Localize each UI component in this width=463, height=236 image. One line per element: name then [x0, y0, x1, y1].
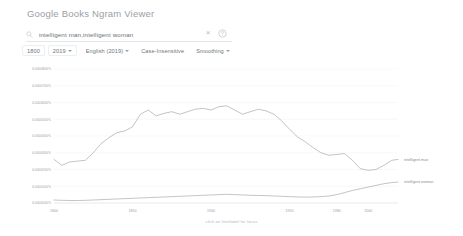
x-axis-tick-label: 1900 [207, 209, 215, 213]
close-icon[interactable]: × [204, 29, 212, 37]
year-start-input[interactable]: 1800 [22, 45, 45, 56]
corpus-select[interactable]: English (2019) [80, 46, 135, 56]
chevron-down-icon [68, 50, 72, 52]
year-end-select[interactable]: 2019 [48, 45, 77, 56]
y-axis-tick-label: 0.0000500% [32, 118, 51, 122]
series-line[interactable] [54, 182, 398, 200]
series-line[interactable] [54, 106, 398, 170]
smoothing-select[interactable]: Smoothing [190, 46, 236, 56]
chevron-down-icon [125, 50, 129, 52]
x-axis-tick-label: 1800 [50, 209, 58, 213]
y-axis-tick-label: 0.0000100% [32, 185, 51, 189]
y-axis-tick-label: 0.0000200% [32, 168, 51, 172]
y-axis-tick-label: 0.0000600% [32, 101, 51, 105]
chevron-down-icon [226, 50, 230, 52]
x-axis-tick-label: 1980 [333, 209, 341, 213]
y-axis-tick-label: 0.0000700% [32, 84, 51, 88]
series-legend-label[interactable]: intelligent woman [404, 180, 433, 184]
help-circle-icon[interactable] [218, 29, 227, 38]
x-axis-tick-label: 1950 [286, 209, 294, 213]
search-icon [26, 31, 33, 38]
chart-hint: click on line/label for focus [0, 219, 463, 224]
y-axis-tick-label: 0.0000000% [32, 201, 51, 205]
y-axis-tick-label: 0.0000800% [32, 67, 51, 71]
search-bar[interactable]: intelligent man,intelligent woman × [26, 27, 232, 42]
corpus-label: English (2019) [86, 48, 123, 54]
ngram-chart[interactable]: 0.0000000%0.0000100%0.0000200%0.0000300%… [0, 60, 463, 220]
page-header: Google Books Ngram Viewer [27, 8, 154, 19]
chart-svg: 0.0000000%0.0000100%0.0000200%0.0000300%… [0, 60, 463, 220]
series-legend-label[interactable]: intelligent man [404, 158, 428, 162]
x-axis-tick-label: 1850 [129, 209, 137, 213]
ngram-viewer-page: Google Books Ngram Viewer intelligent ma… [0, 0, 463, 236]
x-axis-tick-label: 2000 [364, 209, 372, 213]
case-insensitive-toggle[interactable]: Case-Insensitive [135, 46, 190, 56]
options-row: 1800 2019 English (2019) Case-Insensitiv… [22, 45, 236, 56]
year-end-label: 2019 [53, 48, 66, 54]
y-axis-tick-label: 0.0000400% [32, 134, 51, 138]
smoothing-label: Smoothing [196, 48, 224, 54]
page-title: Google Books Ngram Viewer [27, 8, 154, 19]
y-axis-tick-label: 0.0000300% [32, 151, 51, 155]
